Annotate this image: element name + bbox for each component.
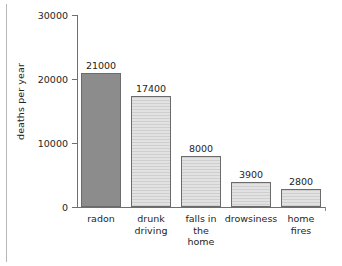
y-axis-tick-label: 10000 [38, 138, 68, 149]
y-axis-tick-label: 20000 [38, 74, 68, 85]
bar-value-label: 17400 [121, 83, 181, 94]
y-axis-title: deaths per year [15, 47, 26, 157]
y-axis-tick [72, 143, 78, 144]
bar [231, 182, 271, 207]
bar-value-label: 21000 [71, 60, 131, 71]
bar [131, 96, 171, 207]
bar [81, 73, 121, 207]
x-axis-category-label-line: home [268, 213, 334, 225]
y-axis-tick [72, 207, 78, 208]
y-axis-tick [72, 79, 78, 80]
x-axis-category-label-line: fires [268, 225, 334, 237]
bar [281, 189, 321, 207]
x-axis-category-label-line: home [168, 236, 234, 248]
y-axis-tick-label: 30000 [38, 10, 68, 21]
bar-value-label: 2800 [271, 176, 331, 187]
x-axis-category-label: homefires [268, 213, 334, 236]
x-axis-end-tick [325, 207, 326, 211]
bar-chart: deaths per year 0100002000030000 21000ra… [0, 0, 342, 266]
y-axis-tick-label: 0 [62, 202, 68, 213]
x-axis-category-label-line: the [168, 225, 234, 237]
bar [181, 156, 221, 207]
x-axis-line [77, 207, 326, 208]
bar-value-label: 8000 [171, 143, 231, 154]
y-axis-tick [72, 15, 78, 16]
y-axis-line [77, 15, 78, 208]
